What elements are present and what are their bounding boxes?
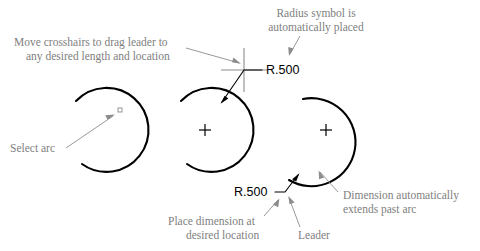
annotation-dimension-extends-line2: extends past arc xyxy=(343,203,416,216)
annotation-leader-label: Leader xyxy=(298,229,330,241)
dimension-label-top: R.500 xyxy=(266,63,299,77)
pointer-arrowhead-leader xyxy=(288,196,294,204)
selection-marker-step1 xyxy=(118,108,122,112)
annotation-place-dimension-line1: Place dimension at xyxy=(168,215,256,227)
annotation-move-crosshairs-line2: any desired length and location xyxy=(26,50,170,63)
annotation-select-arc: Select arc xyxy=(10,142,55,154)
step-2-drag-leader: R.500 xyxy=(181,48,299,172)
step-3-place-dimension: R.500 xyxy=(234,98,355,199)
pointer-line-select-arc xyxy=(66,116,113,148)
radius-dimension-diagram: Move crosshairs to drag leader to any de… xyxy=(0,0,480,251)
dimension-label-bottom: R.500 xyxy=(234,185,267,199)
pointer-arrowhead-place-dimension xyxy=(273,198,279,207)
arc-shape-step3 xyxy=(289,98,355,186)
leader-arrowhead-step3 xyxy=(292,173,299,181)
annotation-leader: Leader xyxy=(288,196,330,241)
annotation-radius-symbol-line1: Radius symbol is xyxy=(276,7,356,20)
annotation-move-crosshairs: Move crosshairs to drag leader to any de… xyxy=(14,36,241,64)
pointer-arrowhead-select-arc xyxy=(105,115,115,120)
arc-shape-step2 xyxy=(181,88,253,172)
annotation-radius-symbol-line2: automatically placed xyxy=(268,21,364,34)
leader-line-step2 xyxy=(222,70,262,102)
leader-arrowhead-step2 xyxy=(221,96,229,104)
diagram-canvas: Move crosshairs to drag leader to any de… xyxy=(0,0,480,251)
pointer-arrowhead-dimension-extends xyxy=(319,170,325,179)
center-mark-step2 xyxy=(199,124,211,136)
step-1-select-arc: Select arc xyxy=(10,88,148,172)
pointer-line-dimension-extends xyxy=(320,172,338,192)
annotation-place-dimension-line2: desired location xyxy=(186,229,259,241)
pointer-arrowhead-move-crosshairs xyxy=(232,57,241,63)
arc-shape-step1 xyxy=(76,88,148,172)
pointer-line-move-crosshairs xyxy=(186,48,239,63)
annotation-place-dimension: Place dimension at desired location xyxy=(168,198,279,241)
annotation-dimension-extends-line1: Dimension automatically xyxy=(343,189,459,202)
center-mark-step3 xyxy=(320,124,332,136)
annotation-move-crosshairs-line1: Move crosshairs to drag leader to xyxy=(14,36,168,49)
annotation-radius-symbol: Radius symbol is automatically placed xyxy=(268,7,364,56)
